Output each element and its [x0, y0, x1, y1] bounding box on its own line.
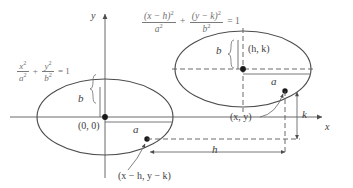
ellipse-translation-figure: x2 a2 + y2 b2 = 1 (x − h)2 a2 + (y − k)2…: [0, 0, 353, 188]
origin-eq-plus: +: [32, 67, 39, 76]
origin-center-dot: [102, 114, 108, 120]
k-dimension-label: k: [302, 109, 307, 120]
translated-ellipse-b-brace: [228, 40, 234, 68]
origin-point-leader: [128, 144, 145, 170]
origin-ellipse-point-label: (x − h, y − k): [118, 171, 171, 181]
origin-ellipse-b-label: b: [78, 93, 84, 104]
origin-ellipse-a-label: a: [133, 124, 139, 135]
translated-eq-term1: (x − h)2 a2: [142, 10, 176, 34]
origin-eq-term1: x2 a2: [17, 60, 29, 83]
origin-eq-equals: = 1: [57, 67, 71, 76]
origin-ellipse-equation: x2 a2 + y2 b2 = 1: [16, 60, 71, 83]
origin-eq-term2: y2 b2: [42, 60, 54, 83]
translated-ellipse-a-label: a: [271, 76, 277, 87]
y-axis-label: y: [91, 11, 95, 21]
translated-ellipse-b-label: b: [216, 45, 222, 56]
x-axis-label: x: [325, 122, 329, 132]
translated-eq-equals: = 1: [226, 17, 240, 27]
h-dimension-label: h: [212, 144, 218, 155]
translated-center-dot: [240, 66, 246, 72]
translated-center-label: (h, k): [248, 44, 270, 54]
translated-eq-term2: (y − k)2 b2: [190, 10, 223, 34]
translated-ellipse-equation: (x − h)2 a2 + (y − k)2 b2 = 1: [141, 10, 241, 34]
translated-eq-plus: +: [179, 17, 186, 27]
origin-center-label: (0, 0): [78, 121, 100, 131]
translated-ellipse-point-label: (x, y): [230, 112, 252, 122]
